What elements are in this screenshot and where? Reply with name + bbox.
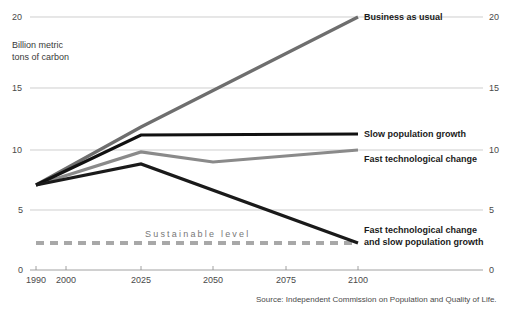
y-label-right-5: 5 <box>489 205 494 215</box>
y-label-left-10: 10 <box>12 145 22 155</box>
y-axis-title: Billion metric tons of carbon <box>12 40 69 62</box>
sustainable-level-label: Sustainable level <box>145 229 250 239</box>
series-label-slow-population-growth: Slow population growth <box>364 129 466 139</box>
x-label-2025: 2025 <box>131 275 151 285</box>
x-label-2100: 2100 <box>348 275 368 285</box>
y-label-right-10: 10 <box>489 145 499 155</box>
y-label-right-15: 15 <box>489 83 499 93</box>
x-label-2075: 2075 <box>276 275 296 285</box>
y-label-right-0: 0 <box>489 265 494 275</box>
y-label-left-0: 0 <box>18 265 23 275</box>
series-label-fast-technological-change: Fast technological change <box>364 154 477 164</box>
y-label-left-15: 15 <box>12 83 22 93</box>
y-axis-title-line1: Billion metric <box>12 40 64 50</box>
series-labels: Business as usual Slow population growth… <box>364 12 484 247</box>
x-label-2000: 2000 <box>56 275 76 285</box>
chart-container: 20 15 10 5 0 20 15 10 5 0 1990 2000 2025… <box>0 0 509 319</box>
y-label-left-5: 5 <box>18 205 23 215</box>
y-label-left-20: 20 <box>12 12 22 22</box>
gridlines <box>30 17 483 210</box>
x-label-2050: 2050 <box>203 275 223 285</box>
series-label-fast-tech-and-slow-pop-line1: Fast technological change <box>364 225 477 235</box>
x-axis <box>30 266 483 270</box>
x-axis-tick-labels: 1990 2000 2025 2050 2075 2100 <box>26 275 368 285</box>
y-axis-labels-right: 20 15 10 5 0 <box>489 12 499 275</box>
x-label-1990: 1990 <box>26 275 46 285</box>
emissions-scenarios-line-chart: 20 15 10 5 0 20 15 10 5 0 1990 2000 2025… <box>0 0 509 319</box>
series-label-fast-tech-and-slow-pop-line2: and slow population growth <box>364 237 484 247</box>
y-axis-title-line2: tons of carbon <box>12 52 69 62</box>
series-line-fast-technological-change <box>36 150 358 185</box>
source-note: Source: Independent Commission on Popula… <box>256 295 497 304</box>
series-label-business-as-usual: Business as usual <box>364 12 443 22</box>
y-label-right-20: 20 <box>489 12 499 22</box>
